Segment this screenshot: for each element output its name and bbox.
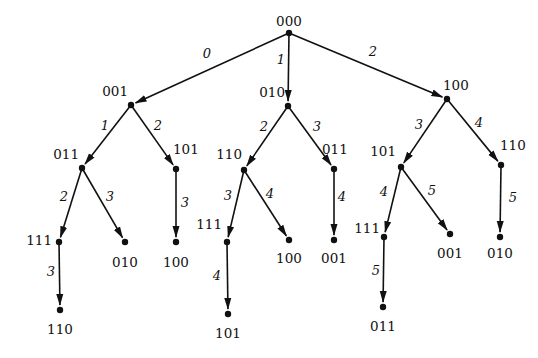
node-dot (398, 164, 404, 170)
nodes-layer (56, 30, 504, 317)
edge-arrow (289, 33, 442, 97)
node-dot (241, 167, 247, 173)
node-dot (498, 162, 504, 168)
node-dot (79, 165, 85, 171)
edge-label: 3 (47, 264, 55, 279)
node-dot (444, 96, 450, 102)
edge-arrow (383, 237, 384, 302)
edge-label: 5 (372, 263, 380, 278)
edge-arrow (85, 105, 131, 164)
edge-label: 3 (224, 188, 232, 203)
tree-diagram: 012122334233344455345 000001010100011101… (0, 0, 538, 358)
node-dot (225, 311, 231, 317)
node-label: 101 (173, 141, 199, 157)
node-dot (381, 234, 387, 240)
node-label: 111 (196, 216, 222, 232)
node-dot (286, 237, 292, 243)
node-dot (224, 239, 230, 245)
edge-label: 2 (259, 119, 268, 134)
node-label: 001 (321, 250, 347, 266)
edge-label: 4 (265, 186, 274, 201)
node-dot (285, 103, 291, 109)
edge-label: 3 (313, 119, 321, 134)
edge-label: 4 (474, 115, 483, 130)
node-label: 011 (370, 318, 396, 334)
edge-arrow (288, 33, 289, 101)
edge-arrow (131, 105, 173, 165)
node-dot (380, 304, 386, 310)
node-dot (331, 237, 337, 243)
edge-label: 3 (181, 195, 189, 210)
node-label: 001 (102, 83, 128, 99)
node-label: 111 (354, 220, 380, 236)
node-label: 110 (500, 137, 526, 153)
edge-label: 2 (153, 118, 162, 133)
node-dot (56, 239, 62, 245)
edge-arrow (59, 242, 60, 305)
edge-arrow (401, 167, 447, 230)
node-dot (286, 30, 292, 36)
edge-label: 2 (59, 189, 68, 204)
node-dot (173, 166, 179, 172)
node-label: 110 (216, 146, 242, 162)
node-dot (331, 166, 337, 172)
node-dot (497, 234, 503, 240)
node-label: 000 (276, 13, 302, 29)
edge-label: 4 (337, 189, 346, 204)
edge-arrow (404, 99, 447, 163)
node-dot (447, 231, 453, 237)
node-label: 010 (112, 254, 138, 270)
node-dot (173, 239, 179, 245)
edge-label: 4 (212, 268, 221, 283)
node-label: 101 (370, 143, 396, 159)
edge-label: 3 (106, 189, 114, 204)
edge-arrow (500, 165, 501, 232)
node-label: 010 (487, 245, 513, 261)
node-label: 110 (47, 321, 73, 337)
edge-arrow (247, 106, 288, 166)
edge-label: 0 (203, 46, 211, 61)
edge-label: 1 (277, 52, 285, 67)
node-label: 111 (26, 232, 52, 248)
node-label: 011 (53, 146, 79, 162)
node-label: 100 (443, 77, 469, 93)
edge-label: 1 (101, 118, 109, 133)
node-label: 100 (276, 250, 302, 266)
edge-label: 4 (379, 184, 388, 199)
edge-arrow (228, 170, 244, 237)
edge-arrow (447, 99, 498, 161)
edge-label: 5 (509, 190, 517, 205)
edge-arrow (244, 170, 286, 236)
node-dot (122, 239, 128, 245)
node-dot (128, 102, 134, 108)
edge-label: 2 (368, 44, 377, 59)
edge-arrow (227, 242, 228, 309)
edge-label: 5 (428, 183, 436, 198)
node-label: 010 (259, 84, 285, 100)
node-label: 011 (322, 141, 348, 157)
node-label: 100 (163, 254, 189, 270)
edge-arrow (82, 168, 122, 238)
edge-label: 3 (415, 117, 423, 132)
edge-arrow (385, 167, 401, 232)
node-label: 001 (437, 245, 463, 261)
node-dot (57, 307, 63, 313)
node-label: 101 (215, 325, 241, 341)
